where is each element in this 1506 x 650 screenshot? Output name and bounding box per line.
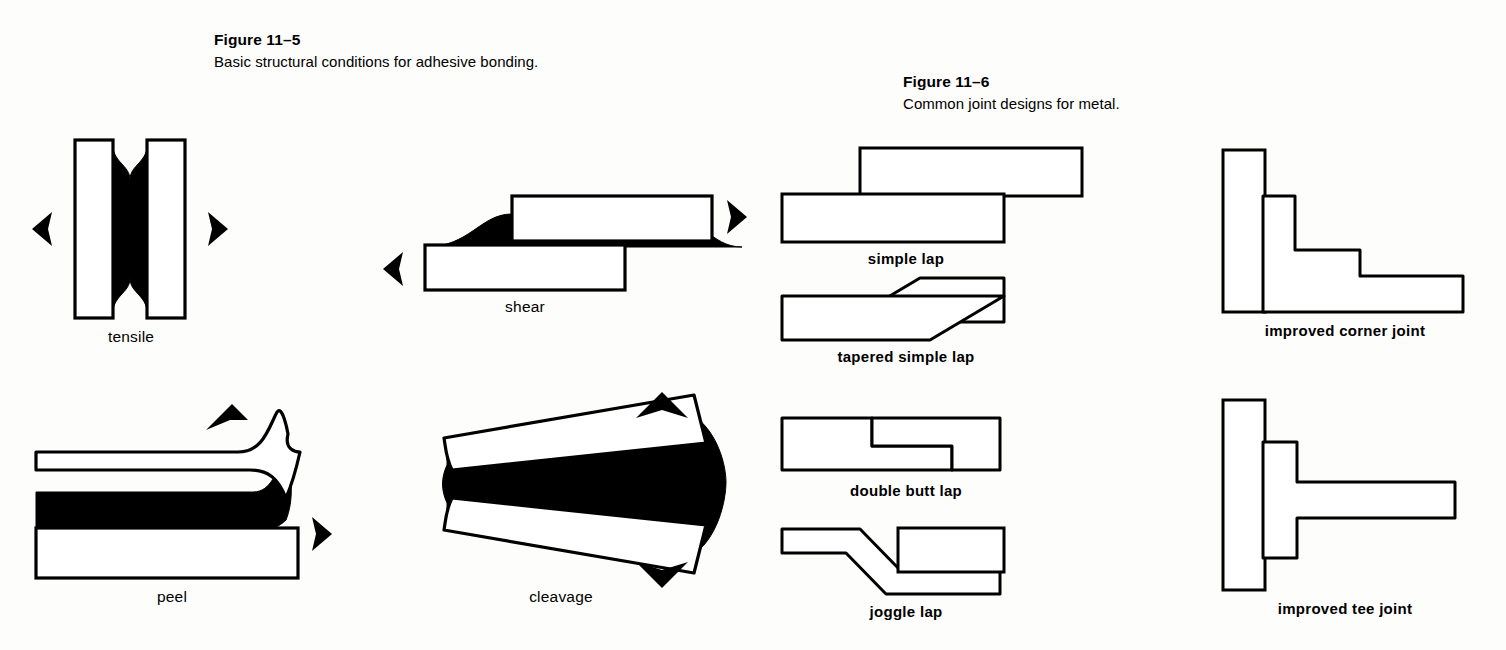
- corner-joint-stepped-member: [1263, 196, 1463, 312]
- simple-lap-lower-bar: [782, 194, 1004, 242]
- tensile-diagram: [32, 140, 228, 318]
- tensile-left-arrow-icon: [32, 212, 52, 246]
- peel-upper-strip: [36, 411, 300, 498]
- figure-11-5-caption-text: Basic structural conditions for adhesive…: [214, 52, 544, 72]
- shear-adhesive-fillet: [425, 214, 742, 247]
- double-butt-left-member: [782, 418, 952, 470]
- label-peel: peel: [157, 588, 187, 606]
- label-tensile: tensile: [108, 328, 154, 346]
- corner-joint-vertical-plate: [1223, 150, 1265, 312]
- improved-tee-joint-diagram: [1223, 400, 1455, 590]
- tapered-simple-lap-diagram: [782, 278, 1004, 340]
- figure-11-5-number: Figure 11–5: [214, 30, 544, 50]
- cleavage-upper-plate: [444, 395, 706, 470]
- shear-right-arrow-icon: [727, 200, 747, 234]
- shear-upper-plate: [512, 196, 712, 241]
- tapered-lap-lower-wedge: [782, 296, 1004, 340]
- label-improved-tee-joint: improved tee joint: [1278, 600, 1413, 617]
- label-joggle-lap: joggle lap: [869, 603, 942, 620]
- tensile-adhesive-notch-helper: [110, 140, 147, 178]
- shear-lower-plate: [425, 245, 625, 290]
- cleavage-down-arrow-icon: [636, 562, 688, 588]
- figure-11-6-number: Figure 11–6: [903, 72, 1233, 92]
- joggle-lap-diagram: [782, 528, 1004, 594]
- shear-diagram: [383, 196, 747, 290]
- shear-left-arrow-icon: [383, 252, 403, 286]
- peel-adhesive-layer: [36, 455, 291, 531]
- cleavage-up-arrow-icon: [636, 392, 688, 418]
- scanned-page: Figure 11–5 Basic structural conditions …: [0, 0, 1506, 650]
- cleavage-adhesive-wedge: [443, 413, 727, 557]
- simple-lap-upper-bar: [860, 148, 1082, 196]
- peel-lower-plate: [36, 528, 298, 578]
- tee-joint-vertical-plate: [1223, 400, 1265, 590]
- improved-corner-joint-diagram: [1223, 150, 1463, 312]
- tensile-right-plate: [147, 140, 185, 318]
- double-butt-right-member: [872, 418, 1000, 470]
- joggle-lap-offset-member: [782, 529, 1000, 594]
- tee-joint-tee-member: [1263, 442, 1455, 558]
- joggle-lap-straight-member: [898, 528, 1004, 572]
- label-simple-lap: simple lap: [868, 250, 944, 267]
- figure-11-6-caption: Figure 11–6 Common joint designs for met…: [903, 72, 1233, 114]
- simple-lap-diagram: [782, 148, 1082, 242]
- label-cleavage: cleavage: [529, 588, 593, 606]
- label-improved-corner-joint: improved corner joint: [1265, 322, 1426, 339]
- figure-11-5-caption: Figure 11–5 Basic structural conditions …: [214, 30, 544, 72]
- tensile-adhesive-layer: [112, 140, 148, 318]
- peel-diagram: [36, 404, 332, 578]
- tapered-lap-upper-wedge: [846, 278, 1004, 322]
- figure-11-6-caption-text: Common joint designs for metal.: [903, 94, 1233, 114]
- label-double-butt-lap: double butt lap: [850, 482, 962, 499]
- label-tapered-simple-lap: tapered simple lap: [837, 348, 974, 365]
- peel-right-arrow-icon: [312, 517, 332, 551]
- tensile-right-arrow-icon: [208, 212, 228, 246]
- peel-up-arrow-icon: [206, 404, 248, 430]
- cleavage-lower-plate: [444, 498, 706, 573]
- double-butt-lap-diagram: [782, 418, 1000, 470]
- cleavage-diagram: [443, 392, 727, 588]
- tensile-left-plate: [75, 140, 113, 318]
- label-shear: shear: [505, 298, 545, 316]
